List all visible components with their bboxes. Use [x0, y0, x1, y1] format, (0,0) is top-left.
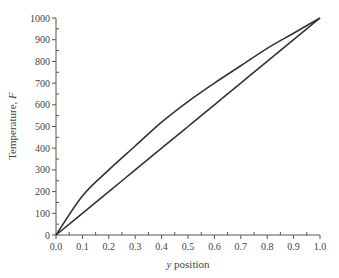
x-tick-label: 0.3	[129, 241, 142, 252]
y-tick-label: 400	[35, 143, 50, 154]
x-axis: 0.00.10.20.30.40.50.60.70.80.91.0	[50, 232, 327, 252]
series-line-2	[56, 18, 320, 235]
y-tick-label: 300	[35, 164, 50, 175]
y-axis-label: Temperature, F	[6, 92, 18, 160]
x-tick-label: 0.8	[261, 241, 274, 252]
chart: 01002003004005006007008009001000 0.00.10…	[0, 0, 339, 278]
plot-lines	[56, 18, 320, 235]
x-tick-label: 0.2	[103, 241, 116, 252]
y-tick-label: 0	[45, 230, 50, 241]
y-axis: 01002003004005006007008009001000	[30, 13, 59, 241]
x-tick-label: 0.7	[235, 241, 248, 252]
x-tick-label: 0.1	[76, 241, 89, 252]
y-tick-label: 100	[35, 208, 50, 219]
y-tick-label: 700	[35, 78, 50, 89]
x-tick-label: 0.9	[287, 241, 300, 252]
x-tick-label: 1.0	[314, 241, 327, 252]
y-tick-label: 800	[35, 56, 50, 67]
y-tick-label: 200	[35, 186, 50, 197]
x-tick-label: 0.0	[50, 241, 63, 252]
y-tick-label: 900	[35, 34, 50, 45]
y-tick-label: 500	[35, 121, 50, 132]
x-axis-label: y position	[165, 258, 210, 270]
x-tick-label: 0.5	[182, 241, 195, 252]
x-tick-label: 0.4	[155, 241, 168, 252]
y-tick-label: 1000	[30, 13, 50, 24]
x-tick-label: 0.6	[208, 241, 221, 252]
y-tick-label: 600	[35, 99, 50, 110]
